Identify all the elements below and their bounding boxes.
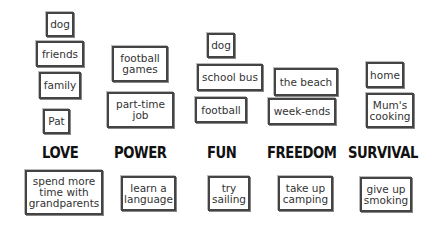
power-activity: learn a language [121,176,176,211]
freedom-activity: take up camping [278,176,333,211]
card-label: learn a language [124,183,173,205]
card-label: football [201,105,241,116]
card-label: week-ends [274,106,331,117]
heading-fun: FUN [207,144,236,162]
heading-love: LOVE [42,144,78,162]
heading-survival: SURVIVAL [348,144,418,162]
love-item-friends: friends [36,41,84,67]
fun-item-school-bus: school bus [197,64,263,91]
card-label: friends [42,49,78,60]
card-label: spend more time with grandparents [29,176,100,209]
power-item-football-games: football games [112,46,168,82]
card-label: school bus [202,72,258,83]
card-label: try sailing [212,183,246,205]
love-item-pat: Pat [43,109,70,134]
card-label: dog [211,40,231,51]
survival-activity: give up smoking [360,177,412,212]
card-label: the beach [280,77,333,88]
heading-freedom: FREEDOM [267,144,336,162]
card-label: give up smoking [364,184,408,206]
fun-activity: try sailing [208,176,250,211]
heading-power: POWER [114,144,166,162]
fun-item-dog: dog [207,33,235,58]
freedom-item-week-ends: week-ends [268,98,336,125]
love-item-dog: dog [46,12,74,37]
card-label: part-time job [112,99,169,121]
card-label: dog [50,19,70,30]
freedom-item-the-beach: the beach [274,68,338,96]
survival-item-mums-cooking: Mum's cooking [366,93,414,128]
card-label: take up camping [283,183,328,205]
card-label: Pat [48,116,64,127]
card-label: family [44,80,76,91]
love-item-family: family [39,72,81,99]
love-activity: spend more time with grandparents [25,170,103,215]
fun-item-football: football [195,97,247,123]
card-label: football games [117,53,163,75]
power-item-part-time-job: part-time job [107,92,174,128]
card-label: home [370,70,400,81]
card-label: Mum's cooking [370,100,411,122]
survival-item-home: home [366,62,404,88]
